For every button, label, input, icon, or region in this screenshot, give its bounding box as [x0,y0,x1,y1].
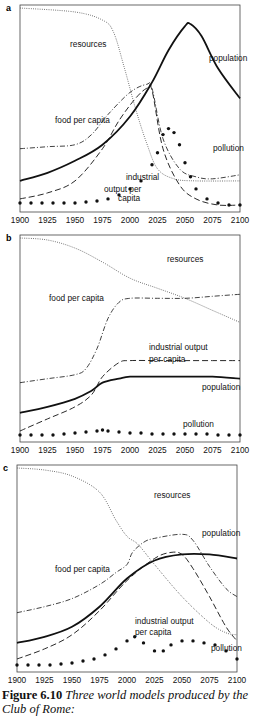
x-tick-label: 2075 [203,445,222,455]
x-tick-label: 2050 [173,675,192,685]
series-annotation: industrial output [135,616,194,626]
x-tick-label: 1925 [38,445,57,455]
series-annotation: industrial output [149,342,208,352]
x-tick-label: 1950 [66,445,85,455]
x-tick-label: 2075 [200,675,219,685]
x-tick-label: 2000 [121,215,140,225]
panel-c: c190019251950197520002025205020752100res… [3,463,247,685]
plot-frame [20,235,240,442]
panel-letter: a [6,3,12,13]
x-tick-label: 2050 [176,215,195,225]
series-annotation: capita [118,193,141,203]
series-pollution [18,428,241,436]
x-tick-label: 1950 [63,675,82,685]
series-annotation: resources [167,254,203,264]
series-annotation: food per capita [55,564,110,574]
series-annotation: population [202,528,241,538]
x-tick-label: 2000 [118,675,137,685]
panel-a: a190019251950197520002025205020752100res… [6,3,250,225]
series-annotation: population [202,382,241,392]
x-tick-label: 1900 [11,215,30,225]
series-annotation: population [209,53,248,63]
x-tick-label: 1950 [66,215,85,225]
series-resources [17,468,237,635]
series-annotation: per capita [149,354,186,364]
series-annotation: industrial [126,172,159,182]
series-annotation: food per capita [49,293,104,303]
series-annotation: resources [154,490,190,500]
x-tick-label: 1925 [35,675,54,685]
x-tick-label: 2050 [176,445,195,455]
x-tick-label: 1975 [93,445,112,455]
x-tick-label: 2025 [148,215,167,225]
panel-letter: b [6,233,12,243]
series-annotation: pollution [213,143,244,153]
series-annotation: pollution [183,419,214,429]
x-tick-label: 2025 [148,445,167,455]
x-tick-label: 1975 [90,675,109,685]
series-pollution [15,635,238,667]
world-models-figure: a190019251950197520002025205020752100res… [0,0,261,717]
series-food-per-capita [20,83,240,179]
series-annotation: pollution [211,643,242,653]
x-tick-label: 2000 [121,445,140,455]
x-tick-label: 2100 [228,675,247,685]
series-food-per-capita [17,534,237,612]
series-resources [20,8,240,181]
x-tick-label: 2100 [231,215,250,225]
x-tick-label: 2025 [145,675,164,685]
series-food-per-capita [20,294,240,382]
x-tick-label: 1900 [11,445,30,455]
series-population [20,23,240,181]
series-annotation: food per capita [55,115,110,125]
x-tick-label: 1925 [38,215,57,225]
figure-label: Figure 6.10 [2,688,62,702]
figure-caption: Figure 6.10 Three world models produced … [2,688,261,716]
series-annotation: resources [70,39,106,49]
x-tick-label: 2075 [203,215,222,225]
x-tick-label: 2100 [231,445,250,455]
panel-letter: c [3,463,8,473]
x-tick-label: 1975 [93,215,112,225]
series-resources [20,238,240,322]
series-annotation: per capita [135,627,172,637]
x-tick-label: 1900 [8,675,27,685]
panel-b: b190019251950197520002025205020752100res… [6,233,250,455]
series-population [17,554,237,643]
